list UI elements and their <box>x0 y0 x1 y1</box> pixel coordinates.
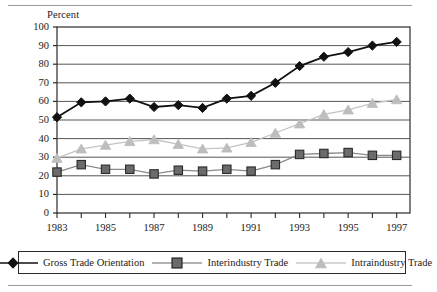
y-axis-tick-label: 90 <box>23 41 49 51</box>
chart-legend: Gross Trade Orientation Interindustry Tr… <box>18 251 406 274</box>
y-axis-tick-label: 40 <box>23 134 49 144</box>
legend-swatch-triangle-icon <box>294 255 348 271</box>
x-axis-tick-label: 1989 <box>183 223 223 233</box>
x-axis-tick-label: 1983 <box>37 223 77 233</box>
y-axis-tick-label: 20 <box>23 171 49 181</box>
legend-label-0: Gross Trade Orientation <box>40 257 151 268</box>
y-axis-tick-label: 60 <box>23 96 49 106</box>
y-axis-tick-label: 30 <box>23 152 49 162</box>
bottom-divider-rule <box>8 285 412 286</box>
legend-label-1: Interindustry Trade <box>204 257 294 268</box>
legend-label-2: Intraindustry Trade <box>348 257 437 268</box>
plot-area: Percent 01020304050607080901001983198519… <box>0 0 420 240</box>
y-axis-tick-label: 50 <box>23 115 49 125</box>
x-axis-tick-label: 1995 <box>328 223 368 233</box>
x-axis-tick-label: 1985 <box>86 223 126 233</box>
legend-swatch-diamond-icon <box>0 255 40 271</box>
legend-item-gross-trade-orientation: Gross Trade Orientation <box>0 255 150 271</box>
plot-svg <box>0 0 420 240</box>
legend-item-intraindustry-trade: Intraindustry Trade <box>294 255 437 271</box>
legend-item-interindustry-trade: Interindustry Trade <box>150 255 294 271</box>
x-axis-tick-label: 1993 <box>280 223 320 233</box>
x-axis-tick-label: 1991 <box>231 223 271 233</box>
legend-swatch-square-icon <box>150 255 204 271</box>
y-axis-tick-label: 0 <box>23 208 49 218</box>
y-axis-tick-label: 70 <box>23 78 49 88</box>
y-axis-tick-label: 80 <box>23 59 49 69</box>
y-axis-tick-label: 100 <box>23 22 49 32</box>
y-axis-tick-label: 10 <box>23 189 49 199</box>
x-axis-tick-label: 1997 <box>377 223 417 233</box>
x-axis-tick-label: 1987 <box>134 223 174 233</box>
